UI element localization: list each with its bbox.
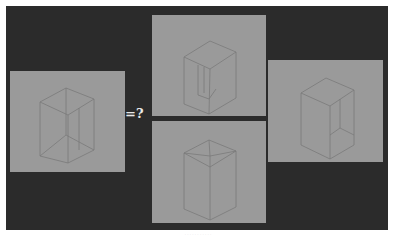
interpretation-panel-top (152, 15, 266, 116)
interpretation-panel-bottom (152, 121, 266, 223)
wireframe-box-icon (268, 60, 383, 162)
query-cube-panel (10, 71, 125, 172)
interpretation-panel-right (268, 60, 383, 162)
wireframe-box-icon (152, 121, 266, 223)
figure-background: =? (6, 6, 388, 230)
wireframe-box-icon (152, 15, 266, 116)
figure-caption: · · · · · · · · · · · (0, 232, 396, 237)
equals-question-label: =? (125, 107, 144, 121)
wireframe-box-icon (10, 71, 125, 172)
